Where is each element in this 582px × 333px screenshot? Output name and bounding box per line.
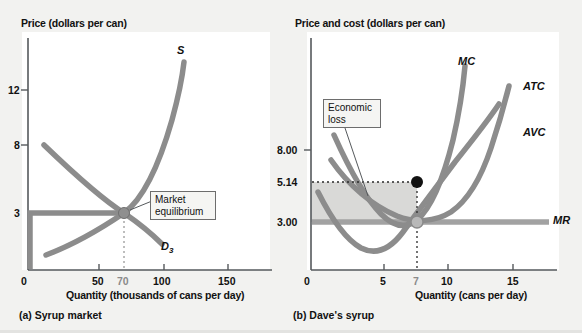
panel-a-graphics — [0, 0, 291, 333]
panel-a-caption: (a) Syrup market — [19, 309, 102, 321]
economic-loss-callout-line1: Economic — [328, 102, 376, 114]
panel-b-ytick-label-800: 8.00 — [277, 144, 297, 156]
market-equilibrium-callout-line1: Market — [155, 194, 211, 206]
panel-a-xtick-label-50: 50 — [92, 275, 104, 287]
panel-b-xtick-label-0: 0 — [304, 275, 310, 287]
panel-b-ytick-label-514: 5.14 — [277, 176, 297, 188]
panel-syrup-market: Price (dollars per can) — [0, 0, 291, 333]
panel-a-ytick-label-12: 12 — [8, 84, 20, 96]
panel-b-xtick-label-7: 7 — [413, 275, 419, 287]
output-quantity-marker — [411, 216, 423, 228]
demand-curve-label: D3 — [161, 240, 173, 255]
panel-a-ytick-label-3: 3 — [14, 207, 20, 219]
economic-loss-callout-line2: loss — [328, 114, 376, 126]
market-equilibrium-marker — [119, 208, 130, 219]
panel-b-caption: (b) Dave's syrup — [293, 309, 374, 321]
panel-a-xtick-label-0: 0 — [21, 275, 27, 287]
panel-b-graphics — [291, 0, 582, 333]
market-equilibrium-callout: Market equilibrium — [150, 191, 216, 220]
panel-a-xtick-label-100: 100 — [153, 275, 171, 287]
panel-b-xtick-label-15: 15 — [507, 275, 519, 287]
mc-curve-label: MC — [458, 55, 475, 67]
panel-a-ytick-label-8: 8 — [14, 139, 20, 151]
economic-loss-callout: Economic loss — [323, 99, 381, 128]
supply-curve — [46, 62, 184, 255]
panel-b-x-axis-title: Quantity (cans per day) — [415, 289, 527, 301]
atc-curve-label: ATC — [523, 80, 545, 92]
panel-a-xtick-label-150: 150 — [218, 275, 236, 287]
atc-at-q7-marker — [411, 176, 423, 188]
market-equilibrium-callout-line2: equilibrium — [155, 206, 211, 218]
panel-b-ytick-label-300: 3.00 — [277, 216, 297, 228]
demand-curve-label-text: D — [161, 240, 169, 252]
avc-curve-label: AVC — [523, 126, 545, 138]
panel-a-x-axis-title: Quantity (thousands of cans per day) — [66, 289, 244, 301]
figure-root: Price (dollars per can) — [0, 0, 582, 333]
mr-curve-label: MR — [553, 214, 570, 226]
demand-curve-label-subscript: 3 — [169, 246, 173, 255]
panel-daves-syrup: Price and cost (dollars per can) — [291, 0, 582, 333]
panel-a-xtick-label-70: 70 — [117, 275, 129, 287]
panel-b-xtick-label-5: 5 — [380, 275, 386, 287]
supply-curve-label: S — [177, 44, 184, 56]
panel-b-xtick-label-10: 10 — [441, 275, 453, 287]
